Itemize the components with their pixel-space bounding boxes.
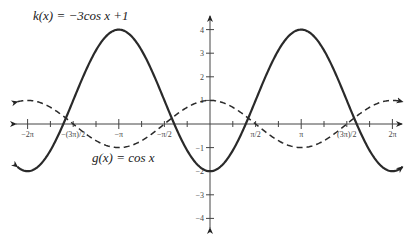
y-tick-label: 2 bbox=[200, 73, 204, 82]
y-tick-label: −4 bbox=[195, 214, 204, 223]
x-tick-label: −π bbox=[115, 130, 124, 139]
x-tick-label: −2π bbox=[21, 130, 34, 139]
function-graph: −2π−(3π)/2−π−π/2π/2π(3π)/22π 4321−1−2−3−… bbox=[0, 0, 416, 246]
x-tick-label: (3π)/2 bbox=[337, 130, 357, 139]
y-tick-label: 3 bbox=[200, 49, 204, 58]
k-equation-label: k(x) = −3cos x +1 bbox=[33, 8, 129, 23]
x-tick-label: −π/2 bbox=[157, 130, 172, 139]
g-equation-label: g(x) = cos x bbox=[92, 150, 155, 165]
y-tick-label: −1 bbox=[195, 144, 204, 153]
x-tick-label: π/2 bbox=[250, 130, 260, 139]
x-tick-label: π bbox=[299, 130, 303, 139]
x-tick-label: 2π bbox=[388, 130, 396, 139]
axes bbox=[16, 16, 402, 228]
y-tick-label: 4 bbox=[200, 26, 204, 35]
x-ticks: −2π−(3π)/2−π−π/2π/2π(3π)/22π bbox=[21, 119, 396, 139]
y-tick-label: −3 bbox=[195, 191, 204, 200]
